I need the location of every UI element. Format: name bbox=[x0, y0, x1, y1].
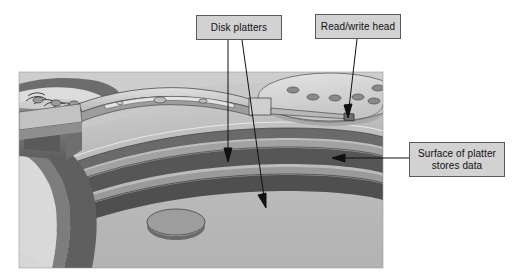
callout-surface-label-line1: Surface of platter bbox=[418, 148, 496, 160]
hub-hole-6 bbox=[368, 98, 380, 104]
hub-hole-5 bbox=[372, 85, 384, 91]
hub-hole-4 bbox=[352, 94, 364, 100]
drive-illustration bbox=[19, 72, 402, 268]
hard-disk-diagram-figure: Disk platters Read/write head Surface of… bbox=[0, 0, 520, 278]
callout-read-write-head-label: Read/write head bbox=[321, 21, 395, 33]
callout-read-write-head[interactable]: Read/write head bbox=[315, 14, 401, 39]
hub-hole-1 bbox=[287, 87, 299, 93]
arm-hole-small bbox=[199, 99, 207, 104]
hub-hole-2 bbox=[307, 94, 319, 100]
arm-hole-large bbox=[154, 97, 166, 103]
platter-surface-hole bbox=[147, 209, 205, 235]
coil-ring-1 bbox=[33, 97, 43, 103]
diagram-canvas bbox=[0, 0, 520, 278]
coil-ring-2 bbox=[51, 100, 61, 106]
arm-hole-tiny bbox=[117, 101, 123, 105]
callout-surface-of-platter[interactable]: Surface of platter stores data bbox=[409, 142, 505, 177]
callout-disk-platters[interactable]: Disk platters bbox=[196, 15, 282, 40]
callout-surface-text: Surface of platter stores data bbox=[418, 148, 496, 171]
hub-hole-3 bbox=[329, 95, 341, 101]
callout-disk-platters-label: Disk platters bbox=[211, 22, 267, 34]
callout-surface-label-line2: stores data bbox=[418, 160, 496, 172]
